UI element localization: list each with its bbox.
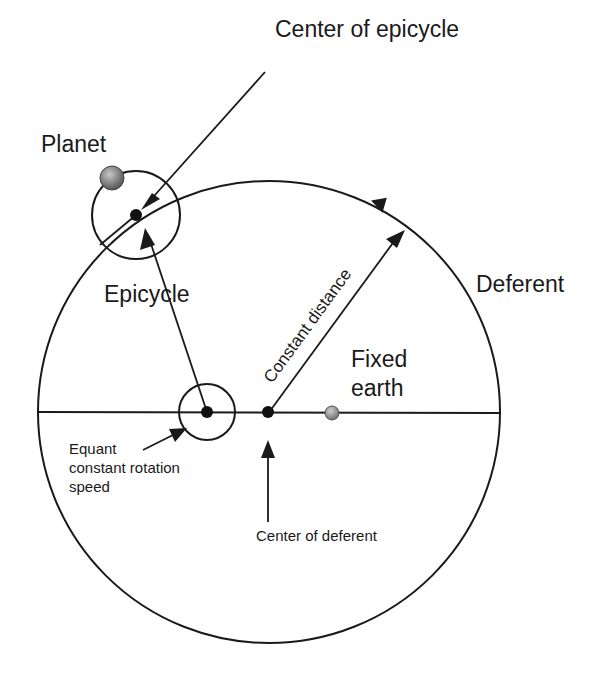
center-of-deferent-arrowhead-icon [261, 440, 275, 458]
epicycle-diagram: Center of epicycle Planet Epicycle Defer… [0, 0, 609, 688]
label-epicycle: Epicycle [104, 281, 190, 307]
label-equant-line3: speed [69, 478, 110, 495]
epicycle-radius-line [100, 215, 136, 245]
label-deferent: Deferent [476, 271, 565, 297]
label-fixed-earth-line2: earth [351, 375, 403, 401]
label-equant-line1: Equant [69, 440, 117, 457]
center-of-epicycle-arrowhead-icon [141, 193, 160, 210]
label-equant-line2: constant rotation [69, 459, 180, 476]
label-center-of-epicycle: Center of epicycle [275, 16, 459, 42]
label-center-of-deferent: Center of deferent [256, 527, 378, 544]
equant-dot [201, 406, 213, 418]
label-fixed-earth-line1: Fixed [351, 346, 407, 372]
label-planet: Planet [41, 131, 107, 157]
earth-icon [325, 406, 339, 420]
label-constant-distance: Constant distance [260, 265, 355, 386]
epicycle-center-dot [130, 209, 142, 221]
center-of-epicycle-pointer [146, 72, 265, 205]
planet-icon [100, 166, 124, 190]
constant-distance-arrowhead-icon [386, 230, 405, 248]
